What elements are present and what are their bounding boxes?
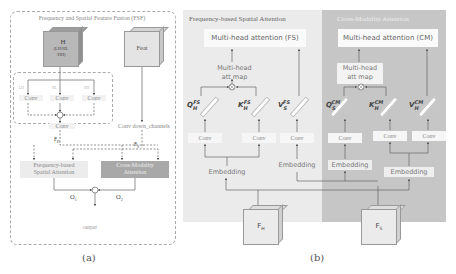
- h-input-cube: H (LH/HL /HH): [43, 27, 83, 67]
- fs-input-cube: FS: [361, 205, 401, 245]
- attmap-cm: Multi-headatt map: [337, 63, 383, 84]
- conv-q-cm: Conv: [328, 133, 362, 143]
- h-sub1: (LH/HL: [43, 46, 79, 51]
- caption-b: (b): [310, 252, 324, 263]
- o1-label: O1: [70, 193, 77, 202]
- v-cm-label: VHCM: [409, 99, 423, 111]
- embedding-qk-fs: Embedding: [206, 167, 248, 177]
- mha-fs-box: Multi-head attention (FS): [204, 29, 306, 47]
- conv-hl: Conv: [50, 95, 74, 101]
- feat-label: Feat: [124, 44, 160, 51]
- h-sub2: /HH): [43, 52, 79, 57]
- cm-attention-line2: Attention: [101, 169, 169, 176]
- v-fs-label: VSFS: [278, 99, 290, 111]
- conv-v-cm: Conv: [412, 131, 446, 141]
- fs-label-a: FS: [134, 141, 139, 149]
- cm-attention-line1: Cross-Modality: [101, 162, 169, 169]
- embedding-kv-cm: Embedding: [384, 167, 434, 177]
- h-label: H: [43, 38, 83, 46]
- q-cm-label: QSCM: [326, 99, 340, 111]
- output-label: output: [83, 224, 97, 230]
- fsf-title: Frequency and Spatial Feature Fusion (FS…: [12, 15, 172, 21]
- fs-attention-line2: Spatial Attention: [20, 169, 88, 176]
- fh-label-a: FH: [54, 136, 60, 144]
- fh-input-cube: FH: [243, 205, 283, 245]
- feat-input-cube: Feat: [124, 27, 164, 67]
- branch-label-hh: HH: [84, 86, 89, 90]
- embedding-v-fs: Embedding: [275, 160, 319, 170]
- conv-k-cm: Conv: [373, 131, 407, 141]
- q-fs-label: QHFS: [187, 99, 200, 111]
- cm-panel-title: Cross-Modality Attention: [337, 15, 409, 23]
- k-fs-label: KHFS: [238, 99, 251, 111]
- k-cm-label: KHCM: [369, 99, 383, 111]
- fs-attention-box-a[interactable]: Frequency-based Spatial Attention: [20, 161, 88, 178]
- fs-label: FS: [361, 222, 397, 231]
- fh-label: FH: [243, 222, 279, 231]
- fs-panel-title: Frequency-based Spatial Attention: [189, 15, 286, 23]
- cm-attention-box-a[interactable]: Cross-Modality Attention: [101, 161, 169, 178]
- conv-down-channels: Conv down_channels: [113, 123, 175, 129]
- o2-label: O2: [116, 193, 123, 202]
- fs-attention-line1: Frequency-based: [20, 162, 88, 169]
- embedding-q-cm: Embedding: [328, 160, 372, 170]
- conv-hh: Conv: [82, 95, 106, 101]
- conv-fused: Conv: [49, 123, 75, 129]
- branch-label-lh: LH: [19, 86, 24, 90]
- conv-v-fs: Conv: [280, 133, 314, 143]
- branch-label-hl: HL: [52, 86, 57, 90]
- caption-a: (a): [82, 252, 96, 263]
- attmap-fs: Multi-headatt map: [212, 63, 257, 84]
- conv-k-fs: Conv: [242, 133, 276, 143]
- conv-q-fs: Conv: [188, 133, 222, 143]
- conv-lh: Conv: [19, 95, 43, 101]
- mha-cm-box: Multi-head attention (CM): [338, 29, 438, 47]
